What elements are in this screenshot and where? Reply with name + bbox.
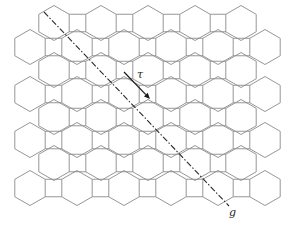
- hexagon-tile: [15, 123, 45, 158]
- hexagon-tile: [133, 6, 163, 41]
- hexagon-tile: [203, 171, 233, 206]
- hexagon-tile: [250, 123, 280, 158]
- hexagon-square-tiling: [15, 6, 280, 206]
- hexagon-tile: [109, 171, 139, 206]
- hexagon-tile: [86, 6, 116, 41]
- hexagon-tile: [156, 171, 186, 206]
- hexagon-tile: [62, 171, 92, 206]
- hexagon-tile: [15, 30, 45, 65]
- tiling-diagram: g τ: [0, 0, 296, 229]
- hexagon-tile: [180, 6, 210, 41]
- hexagon-tile: [250, 77, 280, 112]
- tiling-canvas: [0, 0, 296, 229]
- hexagon-tile: [226, 6, 256, 41]
- hexagon-tile: [250, 171, 280, 206]
- translation-label: τ: [137, 69, 143, 80]
- hexagon-tile: [15, 77, 45, 112]
- glide-axis-label: g: [229, 207, 236, 218]
- hexagon-tile: [15, 171, 45, 206]
- hexagon-tile: [250, 30, 280, 65]
